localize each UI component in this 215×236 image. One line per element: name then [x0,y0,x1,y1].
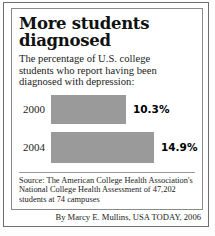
infographic-card: More students diagnosed The percentage o… [0,0,215,236]
bar-value-2004: 14.9% [154,141,197,153]
source-line-1: Source: The American College Health Asso… [19,176,195,185]
category-label-2000: 2000 [19,103,51,115]
category-label-2004: 2004 [19,141,51,153]
subtitle-line-1: The percentage of U.S. college [19,53,195,65]
source-line-3: students at 74 campuses [19,195,195,204]
subtitle: The percentage of U.S. college students … [19,53,195,88]
chart-row: 2004 14.9% [19,133,195,162]
source-divider [19,172,195,173]
subtitle-line-2: students who report having been [19,65,195,77]
content-box: More students diagnosed The percentage o… [11,8,203,210]
page-title: More students diagnosed [19,15,195,49]
source-line-2: National College Health Assessment of 47… [19,185,195,194]
chart-row: 2000 10.3% [19,95,195,124]
headline-line-2: diagnosed [19,32,195,49]
bar-value-2000: 10.3% [126,103,169,115]
bar-chart: 2000 10.3% 2004 14.9% [19,94,195,168]
headline-line-1: More students [19,15,195,32]
byline: By Marcy E. Mullins, USA TODAY, 2006 [11,212,203,222]
bar-2004 [51,132,154,163]
subtitle-line-3: diagnosed with depression: [19,76,195,88]
bar-2000 [51,95,126,124]
source-note: Source: The American College Health Asso… [19,176,195,204]
